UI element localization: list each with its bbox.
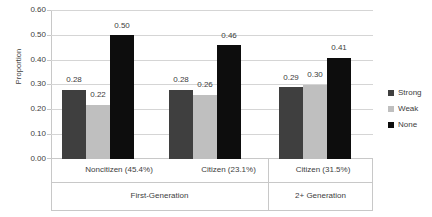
legend-swatch-none-icon xyxy=(388,122,394,128)
bar-label-noncitizen-strong: 0.28 xyxy=(58,76,90,84)
bar-citizen-second-strong[interactable] xyxy=(279,87,303,159)
generation-label-first: First-Generation xyxy=(51,191,268,200)
bar-label-noncitizen-weak: 0.22 xyxy=(82,91,114,99)
legend-swatch-strong-icon xyxy=(388,90,394,96)
bar-chart: Proportion 0.60 0.50 0.40 0.30 0.20 0.10… xyxy=(0,0,432,217)
category-separator-left xyxy=(51,159,52,183)
y-axis-tick-labels: 0.60 0.50 0.40 0.30 0.20 0.10 0.00 xyxy=(20,0,46,217)
legend-label-none: None xyxy=(398,119,417,130)
gridline-0.40 xyxy=(51,60,373,61)
category-label-row: Noncitizen (45.4%) Citizen (23.1%) Citiz… xyxy=(51,159,373,183)
y-tick-label-0.30: 0.30 xyxy=(20,80,46,88)
y-tick-label-0.10: 0.10 xyxy=(20,130,46,138)
bar-citizen-first-strong[interactable] xyxy=(169,90,193,159)
bar-citizen-first-none[interactable] xyxy=(217,45,241,159)
category-separator-mid xyxy=(268,159,269,183)
y-tick-label-0.20: 0.20 xyxy=(20,105,46,113)
gridline-0.50 xyxy=(51,35,373,36)
bar-citizen-first-weak[interactable] xyxy=(193,95,217,159)
bar-citizen-second-weak[interactable] xyxy=(303,85,327,159)
legend-label-strong: Strong xyxy=(398,87,422,98)
bar-label-citizen-second-none: 0.41 xyxy=(323,44,355,52)
bar-noncitizen-weak[interactable] xyxy=(86,105,110,160)
y-tick-label-0.00: 0.00 xyxy=(20,155,46,163)
generation-label-row: First-Generation 2+ Generation xyxy=(51,183,373,211)
generation-separator-right xyxy=(372,183,373,211)
legend-swatch-weak-icon xyxy=(388,106,394,112)
y-tick-label-0.40: 0.40 xyxy=(20,56,46,64)
gridline-0.60 xyxy=(51,10,373,11)
bar-label-citizen-first-none: 0.46 xyxy=(213,32,245,40)
legend-item-weak[interactable]: Weak xyxy=(388,103,432,119)
generation-separator-left xyxy=(51,183,52,211)
plot-area: 0.28 0.22 0.50 0.28 0.26 0.46 0.29 0.30 … xyxy=(51,10,373,159)
y-tick-label-0.60: 0.60 xyxy=(20,6,46,14)
bar-label-noncitizen-none: 0.50 xyxy=(106,22,138,30)
legend: Strong Weak None xyxy=(388,87,432,135)
legend-item-strong[interactable]: Strong xyxy=(388,87,432,103)
bar-noncitizen-strong[interactable] xyxy=(62,90,86,159)
category-label-citizen-second: Citizen (31.5%) xyxy=(273,165,373,174)
legend-item-none[interactable]: None xyxy=(388,119,432,135)
bar-label-citizen-first-weak: 0.26 xyxy=(189,81,221,89)
category-separator-right xyxy=(372,159,373,183)
chart-bottom-border xyxy=(51,210,373,211)
y-tick-label-0.50: 0.50 xyxy=(20,31,46,39)
bar-label-citizen-second-weak: 0.30 xyxy=(299,71,331,79)
legend-label-weak: Weak xyxy=(398,103,418,114)
generation-label-second: 2+ Generation xyxy=(268,191,373,200)
generation-separator-mid xyxy=(268,183,269,211)
